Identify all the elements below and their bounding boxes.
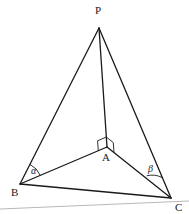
edge-AC xyxy=(107,147,171,198)
angle-arc-beta xyxy=(147,175,163,178)
page-edge-line xyxy=(0,201,189,209)
label-C: C xyxy=(175,201,182,213)
label-P: P xyxy=(95,4,101,16)
label-alpha: α xyxy=(31,165,37,176)
tetrahedron-diagram: P A B C α β xyxy=(0,0,189,214)
label-B: B xyxy=(11,186,18,198)
edge-BC xyxy=(20,184,171,198)
edge-PB xyxy=(20,28,99,184)
label-beta: β xyxy=(147,163,153,174)
edge-PC xyxy=(99,28,171,198)
edge-PA xyxy=(99,28,107,147)
label-A: A xyxy=(102,151,110,163)
